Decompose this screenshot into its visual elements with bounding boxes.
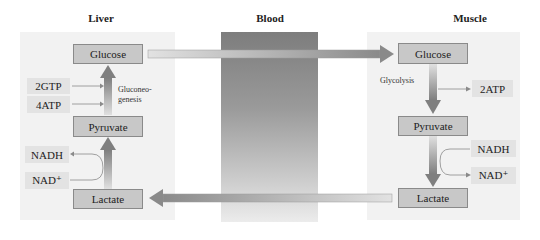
glycolysis-label: Glycolysis (380, 76, 414, 86)
liver-nadh-label: NADH (25, 146, 69, 163)
pyruvate-to-lactate-arrow (425, 136, 441, 187)
liver-4atp-label: 4ATP (27, 96, 70, 113)
muscle-2atp-label: 2ATP (472, 80, 513, 97)
gluconeogenesis-arrow (100, 65, 116, 115)
muscle-nadh-label: NADH (471, 140, 516, 157)
glucose-transport-arrow (148, 45, 394, 63)
lactate-transport-arrow (149, 189, 392, 207)
liver-2gtp-label: 2GTP (27, 78, 70, 94)
muscle-nad-label: NAD⁺ (471, 167, 516, 184)
liver-pyruvate-box: Pyruvate (73, 116, 143, 137)
gluconeogenesis-label: Gluconeo- genesis (118, 85, 152, 105)
liver-glucose-box: Glucose (73, 44, 143, 64)
muscle-lactate-box: Lactate (398, 188, 468, 208)
liver-lactate-box: Lactate (73, 189, 143, 209)
liver-nad-label: NAD⁺ (25, 172, 69, 189)
muscle-glucose-box: Glucose (398, 43, 468, 64)
muscle-pyruvate-box: Pyruvate (398, 116, 468, 136)
